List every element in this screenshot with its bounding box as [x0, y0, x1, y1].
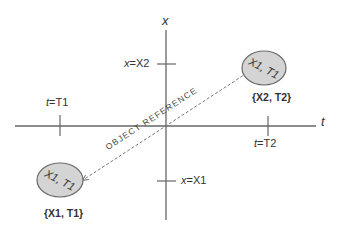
object-target-caption: {X1, T1} [44, 207, 83, 219]
tick-label-t2: t=T2 [254, 137, 276, 149]
tick-label-x1-var: x [181, 174, 187, 186]
x-axis-label: x [162, 13, 169, 28]
object-reference-label: OBJECT REFERENCE [104, 85, 199, 152]
tick-label-x1-value: X1 [193, 174, 206, 186]
tick-label-x2: x=X2 [124, 57, 149, 69]
t-axis-label: t [321, 114, 325, 129]
tick-label-x2-var: x [124, 57, 130, 69]
tick-label-t2-value: T2 [264, 137, 277, 149]
tick-label-x1: x=X1 [181, 174, 206, 186]
tick-label-x2-value: X2 [136, 57, 149, 69]
spacetime-diagram: X1, T1 X1, T1 OBJECT REFERENCE x t x=X2 … [0, 0, 343, 234]
tick-label-t1-var: t [46, 96, 49, 108]
tick-label-t1-value: T1 [56, 96, 69, 108]
diagram-canvas: X1, T1 X1, T1 OBJECT REFERENCE [0, 0, 343, 234]
tick-label-t2-var: t [254, 137, 257, 149]
object-source-caption: {X2, T2} [252, 91, 291, 103]
tick-label-t1: t=T1 [46, 96, 68, 108]
